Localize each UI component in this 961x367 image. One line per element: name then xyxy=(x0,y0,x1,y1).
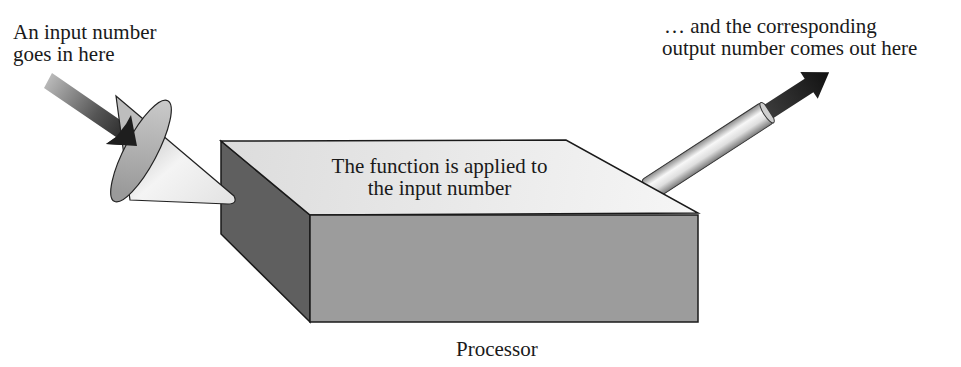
output-label: … and the corresponding output number co… xyxy=(662,15,917,59)
processor-caption: Processor xyxy=(456,338,538,360)
input-label-line-1: An input number xyxy=(13,21,156,43)
output-label-line-1: … and the corresponding xyxy=(662,15,917,37)
arrow-out-icon xyxy=(760,59,838,125)
input-label-line-2: goes in here xyxy=(13,43,156,65)
processor-function-text: The function is applied to the input num… xyxy=(307,155,572,199)
box-front-face xyxy=(310,215,698,322)
input-label: An input number goes in here xyxy=(13,21,156,65)
output-pipe-icon xyxy=(641,101,776,200)
function-text-line-1: The function is applied to xyxy=(307,155,572,177)
function-text-line-2: the input number xyxy=(307,177,572,199)
funnel-cone-icon xyxy=(100,93,235,209)
output-label-line-2: output number comes out here xyxy=(662,37,917,59)
function-machine-diagram: An input number goes in here … and the c… xyxy=(0,0,961,367)
